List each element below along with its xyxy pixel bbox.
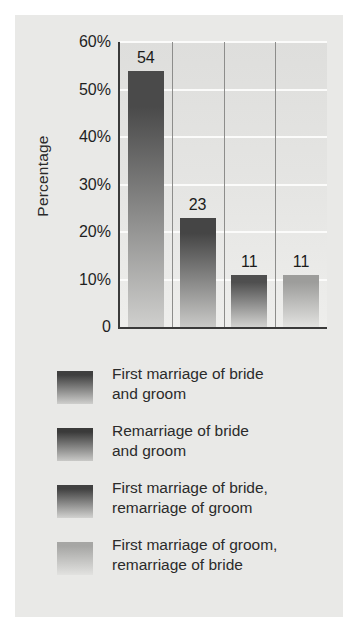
plot-area: 54231111: [118, 42, 327, 329]
y-axis-tick-40pct: 40%: [43, 129, 111, 145]
legend-label-3: First marriage of bride,remarriage of gr…: [112, 478, 337, 517]
bar-value-label-2: 23: [189, 197, 207, 213]
legend-item-2[interactable]: Remarriage of brideand groom: [15, 417, 343, 474]
legend-label-line1: First marriage of bride: [112, 364, 337, 384]
legend-label-line2: remarriage of groom: [112, 498, 337, 518]
category-separator: [172, 42, 173, 327]
bar-2[interactable]: 23: [180, 218, 216, 327]
bar-3[interactable]: 11: [231, 275, 267, 327]
legend-label-1: First marriage of brideand groom: [112, 364, 337, 403]
bar-1[interactable]: 54: [128, 71, 164, 328]
legend-item-1[interactable]: First marriage of brideand groom: [15, 360, 343, 417]
bar-value-label-3: 11: [241, 254, 258, 270]
legend-label-line2: remarriage of bride: [112, 555, 337, 575]
legend-label-line1: Remarriage of bride: [112, 421, 337, 441]
y-axis-tick-60pct: 60%: [43, 34, 111, 50]
y-axis-tick-10pct: 10%: [43, 272, 111, 288]
bar-fill: [283, 275, 319, 327]
y-axis-tick-0: 0: [43, 319, 111, 335]
bar-fill: [128, 71, 164, 328]
legend-label-line1: First marriage of bride,: [112, 478, 337, 498]
legend-label-2: Remarriage of brideand groom: [112, 421, 337, 460]
bar-value-label-1: 54: [137, 50, 155, 66]
chart-figure-panel: Percentage 60%50%40%30%20%10%0 54231111 …: [15, 15, 343, 617]
y-axis-tick-30pct: 30%: [43, 177, 111, 193]
bar-4[interactable]: 11: [283, 275, 319, 327]
legend-label-4: First marriage of groom,remarriage of br…: [112, 535, 337, 574]
y-axis-tick-50pct: 50%: [43, 82, 111, 98]
legend-item-4[interactable]: First marriage of groom,remarriage of br…: [15, 531, 343, 588]
category-separator: [275, 42, 276, 327]
bar-fill: [231, 275, 267, 327]
bar-chart: Percentage 60%50%40%30%20%10%0 54231111: [15, 15, 343, 335]
bar-value-label-4: 11: [293, 254, 310, 270]
legend-swatch-3: [57, 485, 93, 518]
legend-label-line1: First marriage of groom,: [112, 535, 337, 555]
category-separator: [224, 42, 225, 327]
legend-label-line2: and groom: [112, 384, 337, 404]
legend-item-3[interactable]: First marriage of bride,remarriage of gr…: [15, 474, 343, 531]
legend-label-line2: and groom: [112, 441, 337, 461]
legend-swatch-2: [57, 428, 93, 461]
bar-fill: [180, 218, 216, 327]
legend-swatch-1: [57, 371, 93, 404]
chart-legend: First marriage of brideand groomRemarria…: [15, 360, 343, 588]
legend-swatch-4: [57, 542, 93, 575]
y-axis-tick-20pct: 20%: [43, 224, 111, 240]
y-axis-tick-labels: 60%50%40%30%20%10%0: [43, 15, 111, 335]
